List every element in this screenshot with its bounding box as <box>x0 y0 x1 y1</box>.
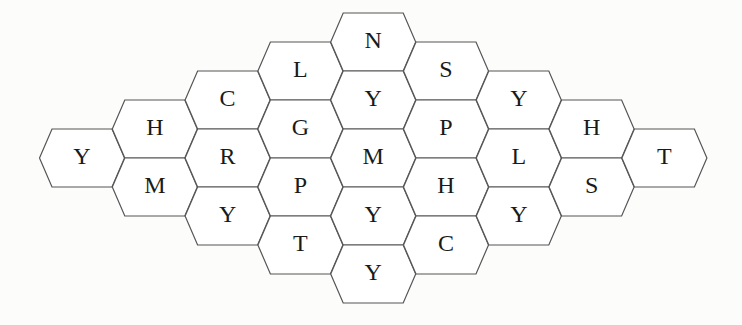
hexagon-shape <box>258 100 343 158</box>
hexagon-shape <box>185 71 270 129</box>
hexagon-shape <box>404 42 489 100</box>
hexagon-shape <box>185 187 270 245</box>
hexagon-shape <box>476 129 561 187</box>
hexagon-shape <box>112 158 197 216</box>
hexagon-shape <box>331 13 416 71</box>
hex-cell-5-0[interactable]: S <box>404 42 489 100</box>
hex-cell-0-0[interactable]: Y <box>40 129 125 187</box>
hex-grid: YHMCRYLGPTNYMYYSPHCYLYHST <box>0 0 742 325</box>
hex-cell-3-0[interactable]: L <box>258 42 343 100</box>
hex-cell-6-2[interactable]: Y <box>476 187 561 245</box>
hexagon-shape <box>258 158 343 216</box>
hexagon-shape <box>404 158 489 216</box>
hexagon-shape <box>112 100 197 158</box>
hex-cell-3-2[interactable]: P <box>258 158 343 216</box>
hex-cell-3-1[interactable]: G <box>258 100 343 158</box>
hex-cell-2-1[interactable]: R <box>185 129 270 187</box>
hexagon-shape <box>185 129 270 187</box>
hexagon-shape <box>331 245 416 303</box>
hex-cell-4-4[interactable]: Y <box>331 245 416 303</box>
hexagon-shape <box>404 216 489 274</box>
hex-cell-8-0[interactable]: T <box>622 129 707 187</box>
hexagon-shape <box>258 42 343 100</box>
hexagon-shape <box>331 187 416 245</box>
hex-cell-7-1[interactable]: S <box>549 158 634 216</box>
hex-cell-1-0[interactable]: H <box>112 100 197 158</box>
hexagon-shape <box>622 129 707 187</box>
hex-cell-1-1[interactable]: M <box>112 158 197 216</box>
hexagon-shape <box>549 158 634 216</box>
hex-cell-2-0[interactable]: C <box>185 71 270 129</box>
hex-cell-2-2[interactable]: Y <box>185 187 270 245</box>
hexagon-shape <box>40 129 125 187</box>
hexagon-shape <box>404 100 489 158</box>
hex-cell-6-1[interactable]: L <box>476 129 561 187</box>
hex-cell-3-3[interactable]: T <box>258 216 343 274</box>
hexagon-shape <box>331 129 416 187</box>
hex-cell-5-2[interactable]: H <box>404 158 489 216</box>
hex-letter-board: YHMCRYLGPTNYMYYSPHCYLYHST <box>0 0 742 325</box>
hex-cell-4-3[interactable]: Y <box>331 187 416 245</box>
hexagon-shape <box>549 100 634 158</box>
hex-cell-6-0[interactable]: Y <box>476 71 561 129</box>
hexagon-shape <box>476 71 561 129</box>
hex-cell-5-1[interactable]: P <box>404 100 489 158</box>
hex-cell-5-3[interactable]: C <box>404 216 489 274</box>
hex-cell-4-2[interactable]: M <box>331 129 416 187</box>
hexagon-shape <box>258 216 343 274</box>
hexagon-shape <box>331 71 416 129</box>
hex-cell-4-1[interactable]: Y <box>331 71 416 129</box>
hex-cell-4-0[interactable]: N <box>331 13 416 71</box>
hex-cell-7-0[interactable]: H <box>549 100 634 158</box>
hexagon-shape <box>476 187 561 245</box>
